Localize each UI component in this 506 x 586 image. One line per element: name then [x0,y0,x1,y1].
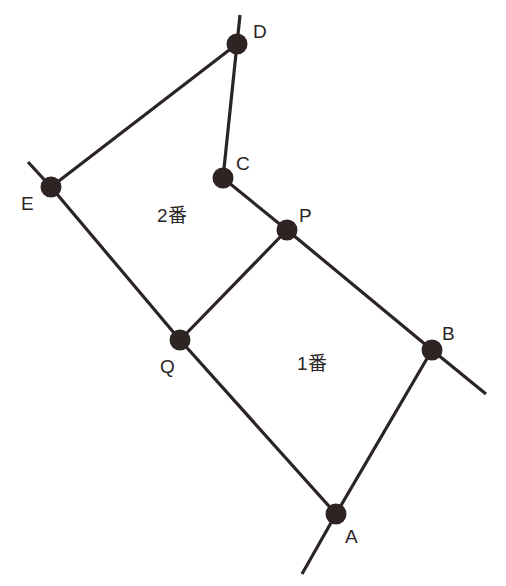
node-label-a: A [345,526,358,547]
node-label-d: D [253,21,267,42]
node-c [213,168,234,189]
edge-b-a [336,350,432,514]
edge-c-p [223,178,287,230]
node-b [422,340,443,361]
node-p [277,220,298,241]
edges-group [51,44,432,514]
node-q [170,330,191,351]
node-label-q: Q [160,356,175,377]
region-1-label: 1番 [297,353,327,374]
edge-d-e [51,44,237,187]
node-label-c: C [236,153,250,174]
edge-p-q [180,230,287,340]
node-label-p: P [299,205,312,226]
region-2-label: 2番 [157,205,187,226]
edge-d-c [223,44,237,178]
edge-p-b [287,230,432,350]
node-a [326,504,347,525]
node-labels-group: DECPQBA [21,21,455,547]
node-label-e: E [21,193,34,214]
node-e [41,177,62,198]
stubs-group [28,15,486,574]
network-diagram: DECPQBA 2番1番 [0,0,506,586]
node-d [227,34,248,55]
node-label-b: B [442,323,455,344]
